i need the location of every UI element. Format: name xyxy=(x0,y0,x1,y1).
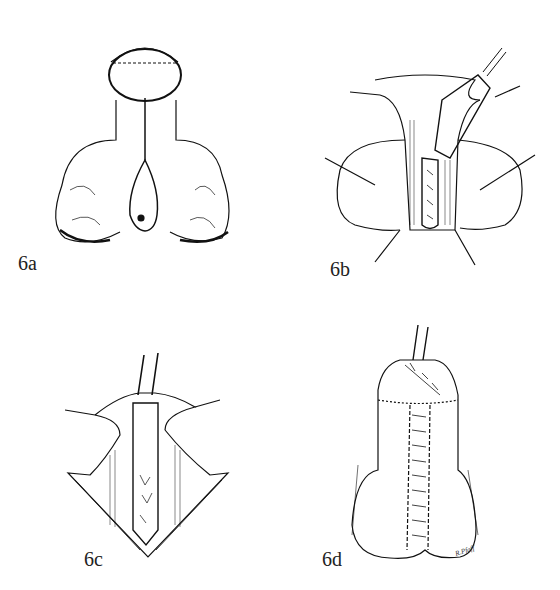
illustration-6d xyxy=(280,295,560,590)
panel-6d: R.Pfaff 6d xyxy=(280,295,560,590)
illustration-6c xyxy=(0,295,280,590)
panel-6a: 6a xyxy=(0,0,280,295)
illustration-6b xyxy=(280,0,560,295)
panel-6c: 6c xyxy=(0,295,280,590)
panel-6b: 6b xyxy=(280,0,560,295)
panel-label-6a: 6a xyxy=(18,252,37,275)
panel-label-6d: 6d xyxy=(322,548,342,571)
panel-label-6b: 6b xyxy=(330,258,350,281)
illustration-6a xyxy=(0,0,280,295)
figure: 6a 6b xyxy=(0,0,560,590)
panel-label-6c: 6c xyxy=(84,548,103,571)
